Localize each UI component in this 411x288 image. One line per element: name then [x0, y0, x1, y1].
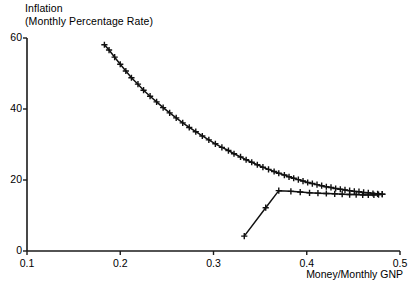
data-marker-plus	[379, 191, 385, 197]
data-marker-plus	[260, 164, 266, 170]
data-marker-plus	[315, 190, 321, 196]
y-tick-label: 60	[0, 31, 22, 43]
data-marker-plus	[291, 175, 297, 181]
x-tick-label: 0.1	[12, 257, 42, 269]
data-marker-plus	[254, 162, 260, 168]
data-marker-plus	[243, 157, 249, 163]
data-marker-plus	[219, 144, 225, 150]
y-tick-label: 0	[0, 244, 22, 256]
data-marker-plus	[265, 166, 271, 172]
data-marker-plus	[347, 191, 353, 197]
data-marker-plus	[237, 154, 243, 160]
data-marker-plus	[333, 185, 339, 191]
y-tick-label: 40	[0, 102, 22, 114]
plot-area	[0, 0, 411, 288]
x-tick-label: 0.4	[292, 257, 322, 269]
data-marker-plus	[249, 159, 255, 165]
x-tick-label: 0.2	[105, 257, 135, 269]
data-marker-plus	[323, 184, 329, 190]
data-marker-plus	[297, 189, 303, 195]
data-marker-plus	[231, 151, 237, 157]
data-marker-plus	[319, 183, 325, 189]
data-marker-plus	[323, 190, 329, 196]
data-marker-plus	[288, 188, 294, 194]
data-marker-plus	[309, 180, 315, 186]
data-marker-plus	[305, 179, 311, 185]
data-marker-plus	[295, 177, 301, 183]
series-line-lower-branch	[244, 191, 382, 236]
x-tick-label: 0.5	[385, 257, 411, 269]
chart-figure: Inflation(Monthly Percentage Rate) Money…	[0, 0, 411, 288]
data-marker-plus	[300, 178, 306, 184]
y-tick-label: 20	[0, 173, 22, 185]
data-marker-plus	[314, 182, 320, 188]
data-marker-plus	[225, 147, 231, 153]
series-line-upper-branch	[104, 45, 382, 194]
data-marker-plus	[306, 190, 312, 196]
data-marker-plus	[328, 184, 334, 190]
data-marker-plus	[332, 191, 338, 197]
x-tick-label: 0.3	[199, 257, 229, 269]
